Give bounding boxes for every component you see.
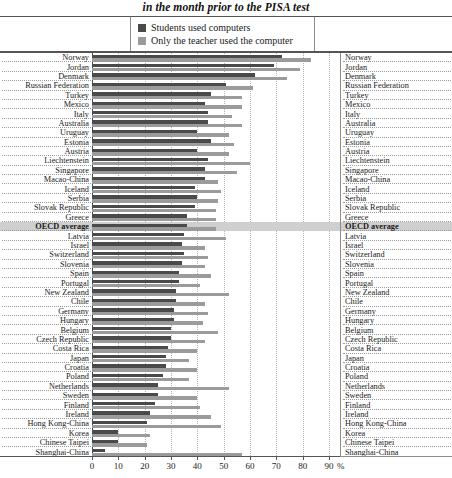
chart-row: [92, 429, 340, 438]
category-label-right: Estonia: [345, 138, 452, 147]
chart-row: Liechtenstein: [341, 156, 452, 165]
chart-row: [92, 382, 340, 391]
chart-row: Macao-China: [341, 175, 452, 184]
bar-teacher: [92, 105, 242, 108]
chart-row: Liechtenstein: [0, 156, 92, 165]
chart-row: Denmark: [0, 72, 92, 81]
legend-box: Students used computers Only the teacher…: [130, 17, 315, 51]
category-label-left: Serbia: [0, 194, 89, 203]
category-label-left: Korea: [0, 429, 89, 438]
category-label-left: Switzerland: [0, 250, 89, 259]
chart-row: Uruguay: [0, 128, 92, 137]
chart-row: Latvia: [341, 231, 452, 240]
category-label-right: Czech Republic: [345, 335, 452, 344]
chart-row: Turkey: [0, 91, 92, 100]
axis-tick-70: [276, 456, 277, 460]
chart-row: [92, 410, 340, 419]
category-label-right: Jordan: [345, 62, 452, 71]
bar-teacher: [92, 256, 208, 259]
x-axis: 0102030405060708090%: [0, 456, 452, 478]
chart-row: [92, 354, 340, 363]
category-label-right: Norway: [345, 53, 452, 62]
chart-row: [92, 194, 340, 203]
bar-teacher: [92, 209, 216, 212]
chart-row: Croatia: [0, 363, 92, 372]
bar-teacher: [92, 133, 229, 136]
category-label-right: Chile: [345, 297, 452, 306]
category-label-left: Mexico: [0, 100, 89, 109]
category-label-left: Slovak Republic: [0, 203, 89, 212]
axis-line: [0, 456, 340, 457]
chart-row: Korea: [341, 429, 452, 438]
bar-teacher: [92, 359, 189, 362]
chart-row: New Zealand: [0, 288, 92, 297]
axis-tick-label-30: 30: [167, 461, 176, 471]
category-label-left: Finland: [0, 400, 89, 409]
chart-row: Japan: [0, 354, 92, 363]
chart-row: [92, 100, 340, 109]
chart-row: Iceland: [0, 184, 92, 193]
chart-row: Costa Rica: [0, 344, 92, 353]
chart-row: [92, 260, 340, 269]
category-label-left: Poland: [0, 372, 89, 381]
category-label-right: Poland: [345, 372, 452, 381]
chart-row: Portugal: [341, 278, 452, 287]
chart-row: [92, 119, 340, 128]
category-label-right: OECD average: [345, 222, 452, 231]
chart-row: Russian Federation: [0, 81, 92, 90]
chart-row: Costa Rica: [341, 344, 452, 353]
bar-teacher: [92, 68, 300, 71]
chart-row: Serbia: [341, 194, 452, 203]
axis-tick-label-50: 50: [219, 461, 228, 471]
category-label-left: Hungary: [0, 316, 89, 325]
chart-row: Macao-China: [0, 175, 92, 184]
bar-teacher: [92, 124, 242, 127]
chart-row: Australia: [341, 119, 452, 128]
legend-label-students: Students used computers: [151, 22, 250, 33]
chart-row: [92, 288, 340, 297]
chart-row: Slovak Republic: [0, 203, 92, 212]
category-label-left: Slovenia: [0, 260, 89, 269]
bar-teacher: [92, 415, 211, 418]
chart-row: Estonia: [0, 138, 92, 147]
chart-row: [92, 203, 340, 212]
chart-row: Turkey: [341, 91, 452, 100]
chart-row: Latvia: [0, 231, 92, 240]
chart-row: Austria: [341, 147, 452, 156]
chart-row: Slovak Republic: [341, 203, 452, 212]
category-label-left: Russian Federation: [0, 81, 89, 90]
category-label-right: Netherlands: [345, 382, 452, 391]
category-label-left: Denmark: [0, 72, 89, 81]
chart-row: Switzerland: [341, 250, 452, 259]
category-label-left: Germany: [0, 307, 89, 316]
category-label-left: Singapore: [0, 166, 89, 175]
chart-row: Norway: [0, 53, 92, 62]
bar-teacher: [92, 443, 147, 446]
chart-row: [92, 419, 340, 428]
axis-tick-label-70: 70: [272, 461, 281, 471]
category-label-left: Belgium: [0, 325, 89, 334]
axis-tick-40: [197, 456, 198, 460]
bar-teacher: [92, 396, 197, 399]
chart-row: Finland: [341, 400, 452, 409]
category-label-right: Slovak Republic: [345, 203, 452, 212]
bar-teacher: [92, 246, 205, 249]
chart-row: Ireland: [0, 410, 92, 419]
category-label-left: OECD average: [0, 222, 89, 231]
chart-row: Italy: [0, 109, 92, 118]
bar-teacher: [92, 284, 200, 287]
axis-tick-label-0: 0: [90, 461, 95, 471]
category-label-right: Iceland: [345, 184, 452, 193]
legend-item-teacher: Only the teacher used the computer: [138, 35, 314, 46]
category-label-left: Jordan: [0, 62, 89, 71]
bar-teacher: [92, 265, 205, 268]
bar-teacher: [92, 96, 242, 99]
category-label-left: Liechtenstein: [0, 156, 89, 165]
chart-row: [92, 213, 340, 222]
chart-row: Portugal: [0, 278, 92, 287]
bar-teacher: [92, 293, 229, 296]
category-label-right: Singapore: [345, 166, 452, 175]
chart-row: Spain: [0, 269, 92, 278]
chart-row: Greece: [341, 213, 452, 222]
bar-teacher: [92, 340, 205, 343]
